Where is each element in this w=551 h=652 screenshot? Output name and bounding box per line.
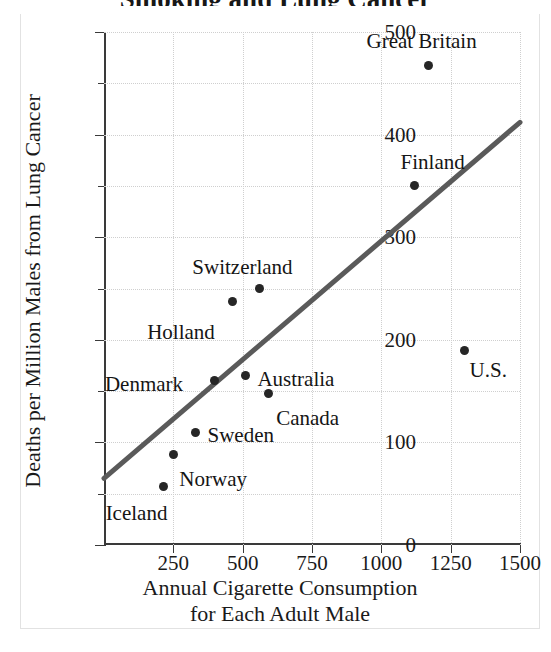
chart-title-text: Smoking and Lung Cancer [0,0,551,6]
x-axis-tick-label: 250 [158,552,190,574]
data-point [169,450,178,459]
x-axis-tick-label: 1250 [430,552,472,574]
data-point-label: Canada [276,407,339,429]
data-point-label: Great Britain [366,30,476,52]
data-point-label: Sweden [208,424,275,446]
data-point [228,297,237,306]
y-axis-tick [95,340,104,341]
y-axis-tick [95,545,104,546]
x-axis-label-line1: Annual Cigarette Consumption [20,575,540,601]
data-point [460,346,469,355]
x-axis-tick-label: 500 [227,552,259,574]
x-axis-label: Annual Cigarette Consumption for Each Ad… [20,575,540,627]
data-point [191,428,200,437]
data-point-label: Iceland [106,502,168,524]
x-axis-tick-label: 1000 [360,552,402,574]
data-point-label: Norway [179,468,247,490]
x-axis-tick-label: 750 [296,552,328,574]
gridline-vertical [520,32,522,545]
data-point [255,284,264,293]
y-axis-tick [95,32,104,33]
data-point-label: Finland [401,151,465,173]
data-point-label: Denmark [105,373,183,395]
plot-area: 250500750100012501500 0100200300400500 I… [104,32,520,545]
y-axis-label: Deaths per Million Males from Lung Cance… [21,31,45,551]
y-axis-tick [95,237,104,238]
data-point-label: U.S. [470,359,507,381]
chart-title-clipped: Smoking and Lung Cancer [0,0,551,6]
y-axis-tick [95,442,104,443]
regression-line [104,32,520,545]
data-point-label: Holland [147,321,215,343]
x-axis-tick-label: 1500 [499,552,541,574]
y-axis-tick [95,135,104,136]
data-point-label: Australia [257,368,334,390]
figure-scatter-smoking-lung-cancer: Smoking and Lung Cancer 2505007501000125… [0,0,551,652]
data-point-label: Switzerland [192,256,292,278]
x-axis-label-line2: for Each Adult Male [20,601,540,627]
